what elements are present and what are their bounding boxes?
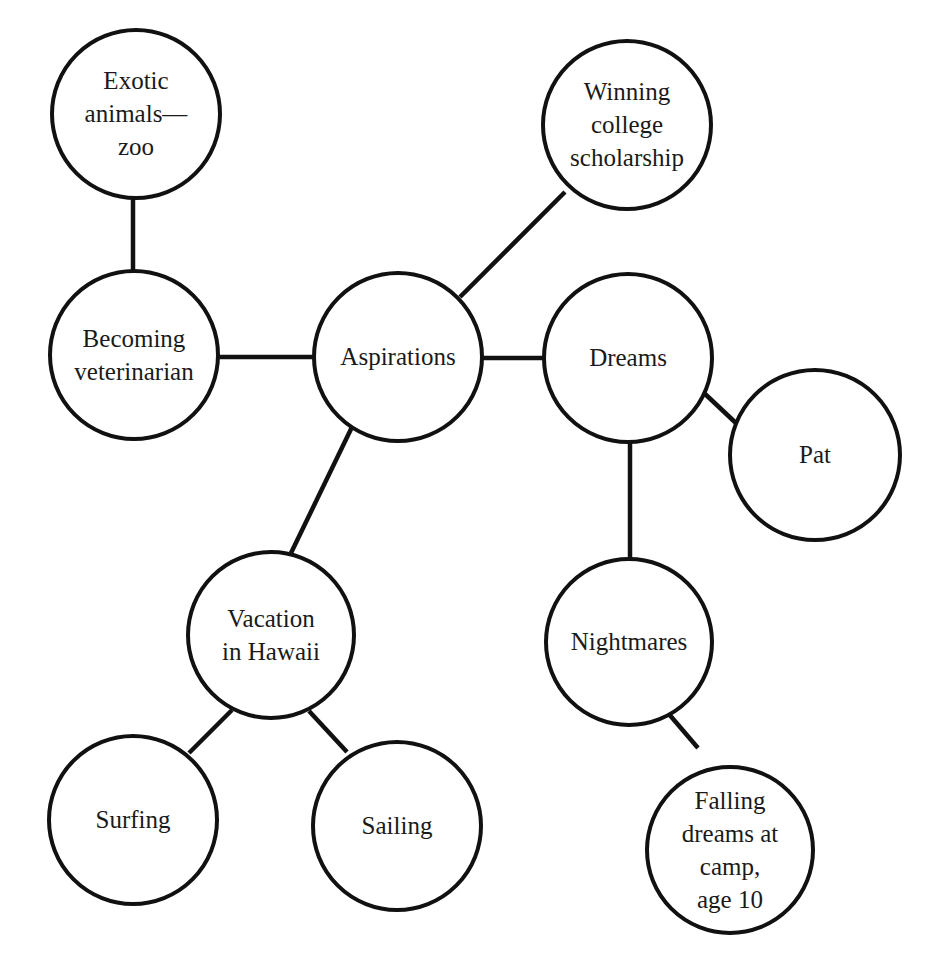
- node-label: camp,: [700, 853, 760, 880]
- node-label: zoo: [118, 133, 154, 160]
- node-label: Surfing: [96, 806, 172, 833]
- node-label: age 10: [697, 886, 763, 913]
- edge-nightmares-falling: [668, 713, 698, 748]
- node-label: Pat: [799, 441, 831, 468]
- edge-dreams-pat: [704, 393, 737, 424]
- edge-aspirations-hawaii: [291, 427, 352, 553]
- cluster-diagram: Exoticanimals—zooBecomingveterinarianAsp…: [0, 0, 940, 953]
- node-circle: [50, 271, 218, 439]
- node-pat: Pat: [730, 370, 900, 540]
- node-aspirations: Aspirations: [314, 273, 482, 441]
- node-label: Exotic: [103, 67, 168, 94]
- node-sailing: Sailing: [313, 742, 481, 910]
- node-hawaii: Vacationin Hawaii: [188, 552, 354, 718]
- node-label: Dreams: [589, 344, 667, 371]
- edge-hawaii-surfing: [189, 710, 232, 753]
- node-circle: [188, 552, 354, 718]
- node-label: Sailing: [362, 812, 433, 839]
- node-label: Winning: [584, 78, 671, 105]
- node-label: Aspirations: [340, 343, 455, 370]
- node-label: Vacation: [227, 605, 315, 632]
- node-label: dreams at: [682, 820, 779, 847]
- nodes-layer: Exoticanimals—zooBecomingveterinarianAsp…: [49, 30, 900, 933]
- node-falling: Fallingdreams atcamp,age 10: [647, 767, 813, 933]
- node-label: Becoming: [83, 325, 186, 352]
- node-veterinarian: Becomingveterinarian: [50, 271, 218, 439]
- node-label: animals—: [85, 100, 189, 127]
- node-surfing: Surfing: [49, 736, 217, 904]
- node-nightmares: Nightmares: [546, 559, 712, 725]
- node-scholarship: Winningcollegescholarship: [543, 41, 711, 209]
- node-label: college: [591, 111, 663, 138]
- node-exotic: Exoticanimals—zoo: [52, 30, 220, 198]
- edge-aspirations-scholarship: [460, 192, 565, 297]
- edge-hawaii-sailing: [309, 711, 347, 752]
- node-label: scholarship: [570, 144, 684, 171]
- node-dreams: Dreams: [544, 274, 712, 442]
- node-label: veterinarian: [74, 358, 194, 385]
- node-label: Falling: [695, 787, 766, 814]
- node-label: Nightmares: [571, 628, 688, 655]
- node-label: in Hawaii: [222, 638, 320, 665]
